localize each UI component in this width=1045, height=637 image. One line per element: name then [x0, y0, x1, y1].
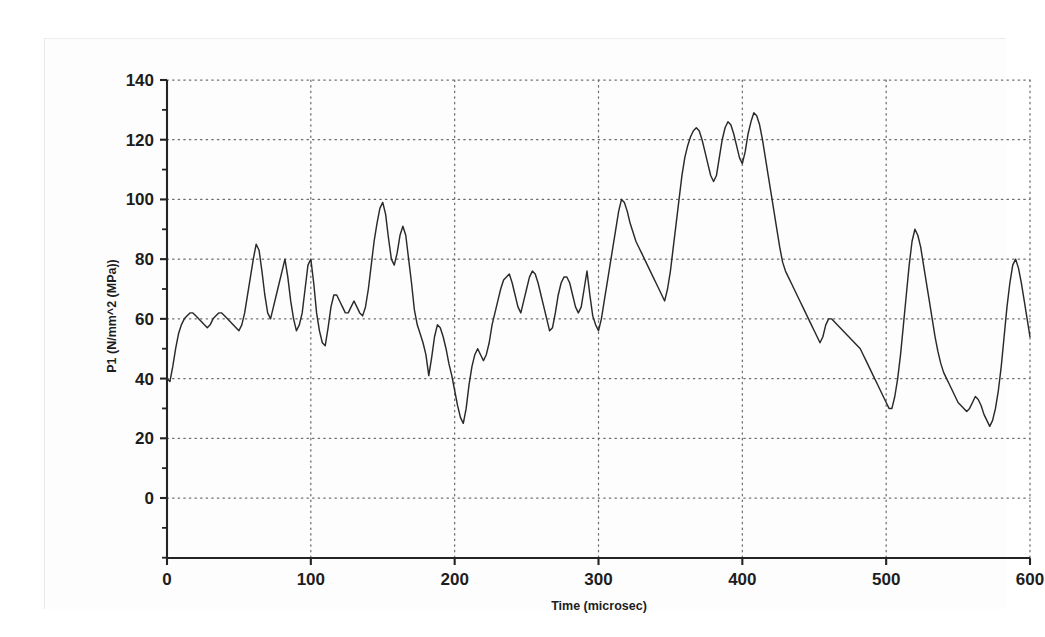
y-tick-label-120: 120 [126, 131, 154, 150]
y-tick-label-0: 0 [145, 489, 154, 508]
x-tick-label-400: 400 [728, 570, 756, 589]
y-axis-title: P1 (N/mm^2 (MPa)) [105, 259, 119, 373]
y-tick-label-20: 20 [135, 429, 154, 448]
x-tick-label-200: 200 [440, 570, 468, 589]
y-tick-label-60: 60 [135, 310, 154, 329]
line-chart-figure: 020406080100120140 0100200300400500600 P… [40, 16, 1045, 637]
y-tick-label-140: 140 [126, 71, 154, 90]
x-tick-label-300: 300 [584, 570, 612, 589]
x-tick-label-500: 500 [872, 570, 900, 589]
x-axis-tick-labels: 0100200300400500600 [162, 570, 1044, 589]
x-tick-label-0: 0 [162, 570, 171, 589]
y-axis-tick-labels: 020406080100120140 [126, 71, 154, 508]
y-tick-label-40: 40 [135, 370, 154, 389]
y-tick-label-80: 80 [135, 250, 154, 269]
y-tick-label-100: 100 [126, 190, 154, 209]
x-axis-title: Time (microsec) [551, 599, 647, 613]
x-tick-label-100: 100 [297, 570, 325, 589]
x-tick-label-600: 600 [1016, 570, 1044, 589]
chart-canvas: 020406080100120140 0100200300400500600 P… [40, 16, 1045, 637]
